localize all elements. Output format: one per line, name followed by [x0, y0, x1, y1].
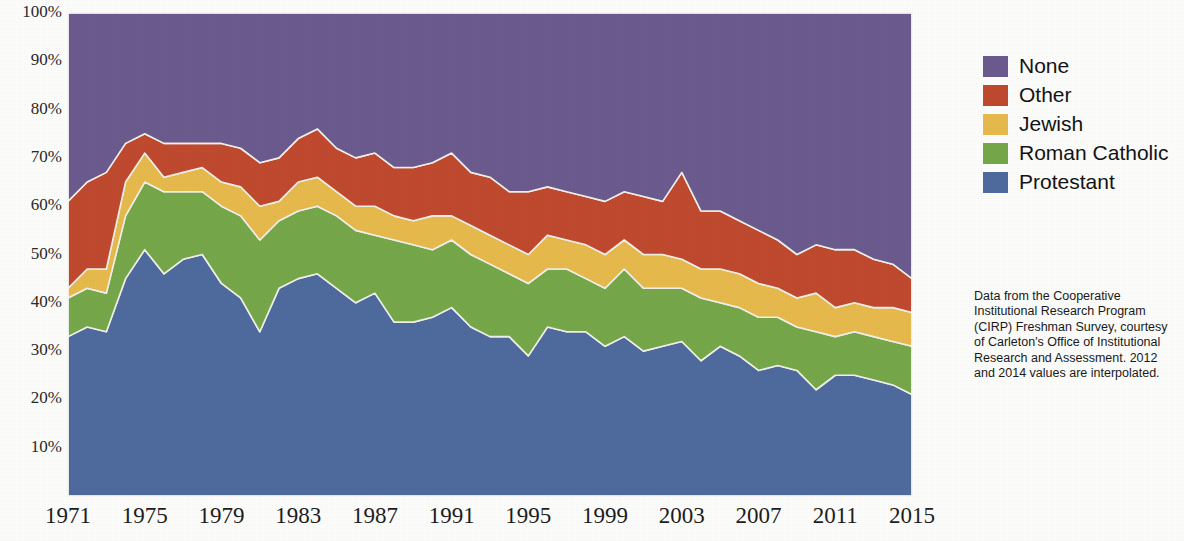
x-tick-1991: 1991 — [417, 503, 487, 529]
y-tick-40: 40% — [4, 292, 62, 312]
y-tick-60: 60% — [4, 195, 62, 215]
x-tick-1971: 1971 — [33, 503, 103, 529]
legend-label: None — [1019, 54, 1069, 78]
legend-item-protestant: Protestant — [983, 168, 1183, 196]
legend-item-jewish: Jewish — [983, 110, 1183, 138]
x-tick-1983: 1983 — [263, 503, 333, 529]
x-tick-2007: 2007 — [724, 503, 794, 529]
x-tick-1975: 1975 — [110, 503, 180, 529]
legend-swatch-icon — [983, 85, 1008, 106]
y-axis-tick-labels: 100%90%80%70%60%50%40%30%20%10% — [0, 0, 62, 500]
y-tick-90: 90% — [4, 50, 62, 70]
chart-page: 100%90%80%70%60%50%40%30%20%10% 19711975… — [0, 0, 1184, 541]
legend-item-none: None — [983, 52, 1183, 80]
legend-swatch-icon — [983, 172, 1008, 193]
chart-caption-text: Data from the Cooperative Institutional … — [974, 289, 1174, 381]
legend-label: Jewish — [1019, 112, 1083, 136]
legend-item-roman-catholic: Roman Catholic — [983, 139, 1183, 167]
x-tick-1987: 1987 — [340, 503, 410, 529]
legend-label: Protestant — [1019, 170, 1115, 194]
y-tick-20: 20% — [4, 388, 62, 408]
legend-swatch-icon — [983, 56, 1008, 77]
x-tick-1995: 1995 — [493, 503, 563, 529]
legend-swatch-icon — [983, 114, 1008, 135]
x-axis-tick-labels: 1971197519791983198719911995199920032007… — [0, 503, 960, 541]
legend-label: Roman Catholic — [1019, 141, 1168, 165]
y-tick-50: 50% — [4, 244, 62, 264]
y-tick-70: 70% — [4, 147, 62, 167]
chart-legend: NoneOtherJewishRoman CatholicProtestant — [983, 52, 1183, 197]
x-tick-1979: 1979 — [186, 503, 256, 529]
legend-item-other: Other — [983, 81, 1183, 109]
legend-label: Other — [1019, 83, 1072, 107]
plot-area — [0, 0, 960, 505]
x-tick-2003: 2003 — [647, 503, 717, 529]
y-tick-100: 100% — [4, 2, 62, 22]
x-tick-2015: 2015 — [877, 503, 947, 529]
stacked-area-chart: 100%90%80%70%60%50%40%30%20%10% 19711975… — [0, 0, 960, 541]
x-tick-2011: 2011 — [800, 503, 870, 529]
y-tick-80: 80% — [4, 99, 62, 119]
legend-swatch-icon — [983, 143, 1008, 164]
x-tick-1999: 1999 — [570, 503, 640, 529]
y-tick-30: 30% — [4, 340, 62, 360]
y-tick-10: 10% — [4, 437, 62, 457]
